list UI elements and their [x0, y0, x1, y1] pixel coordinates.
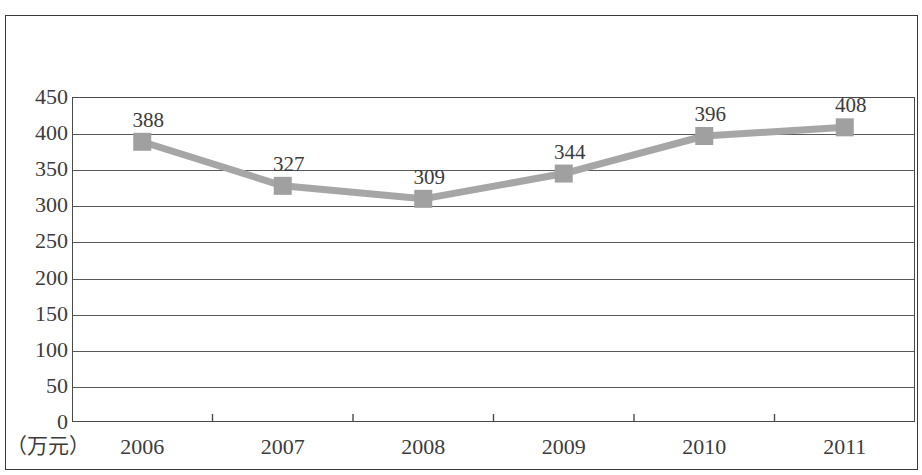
data-point-label: 396 — [695, 104, 727, 125]
data-point-label: 309 — [414, 167, 446, 188]
chart-screenshot: 050100150200250300350400450 388327309344… — [0, 0, 922, 475]
y-axis-tick-label: 150 — [4, 303, 68, 325]
x-axis-tick-label: 2011 — [823, 436, 866, 458]
x-axis-tick-label: 2009 — [542, 436, 586, 458]
data-point-label: 327 — [273, 154, 305, 175]
data-point-label: 408 — [835, 95, 867, 116]
data-point-label: 388 — [133, 110, 165, 131]
y-axis-tick-label: 100 — [4, 339, 68, 361]
y-axis-tick-label: 0 — [4, 411, 68, 433]
unit-label: （万元） — [6, 436, 90, 457]
y-axis-tick-label: 300 — [4, 194, 68, 216]
x-axis-tick-label: 2010 — [682, 436, 726, 458]
y-axis-tick-label: 350 — [4, 158, 68, 180]
x-axis-tick-labels: 200620072008200920102011 — [72, 436, 915, 466]
y-axis-tick-label: 450 — [4, 86, 68, 108]
y-axis-tick-label: 200 — [4, 267, 68, 289]
y-axis-tick-label: 50 — [4, 375, 68, 397]
x-axis-tick-label: 2006 — [120, 436, 164, 458]
y-axis-tick-labels: 050100150200250300350400450 — [0, 97, 68, 422]
y-axis-tick-label: 400 — [4, 122, 68, 144]
x-axis-tick-label: 2007 — [261, 436, 305, 458]
data-point-labels: 388327309344396408 — [72, 97, 915, 422]
y-axis-tick-label: 250 — [4, 230, 68, 252]
x-axis-tick-label: 2008 — [401, 436, 445, 458]
data-point-label: 344 — [554, 142, 586, 163]
